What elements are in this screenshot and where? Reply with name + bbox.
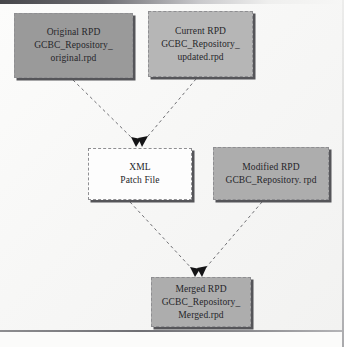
scan-artifact-top-band <box>0 0 344 4</box>
node-modified-rpd-line-1: Modified RPD <box>242 161 299 174</box>
node-current-rpd-line-3: updated.rpd <box>177 51 223 64</box>
node-original-rpd-line-3: original.rpd <box>51 52 97 65</box>
node-merged-rpd-line-3: Merged.rpd <box>178 309 223 322</box>
node-xml-patch-file-line-2: Patch File <box>120 174 159 187</box>
diagram-canvas: Original RPD GCBC_Repository_ original.r… <box>0 0 344 347</box>
node-original-rpd-line-1: Original RPD <box>47 26 101 39</box>
node-xml-patch-file[interactable]: XML Patch File <box>88 148 192 200</box>
node-modified-rpd[interactable]: Modified RPD GCBC_Repository. rpd <box>213 147 329 200</box>
node-merged-rpd-line-1: Merged RPD <box>175 283 226 296</box>
node-current-rpd[interactable]: Current RPD GCBC_Repository_ updated.rpd <box>148 11 253 77</box>
scan-artifact-bottom-rule <box>0 330 344 332</box>
node-modified-rpd-line-2: GCBC_Repository. rpd <box>225 174 316 187</box>
node-original-rpd[interactable]: Original RPD GCBC_Repository_ original.r… <box>14 13 133 78</box>
node-merged-rpd-line-2: GCBC_Repository_ <box>162 296 241 309</box>
node-original-rpd-line-2: GCBC_Repository_ <box>34 39 113 52</box>
node-xml-patch-file-line-1: XML <box>129 161 150 174</box>
node-merged-rpd[interactable]: Merged RPD GCBC_Repository_ Merged.rpd <box>151 277 251 327</box>
node-current-rpd-line-2: GCBC_Repository_ <box>161 38 240 51</box>
node-current-rpd-line-1: Current RPD <box>175 25 226 38</box>
